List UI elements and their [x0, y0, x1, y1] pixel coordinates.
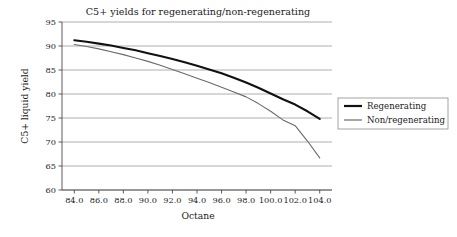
legend-label-non-regenerating: Non/regenerating — [367, 115, 445, 125]
x-tick-label: 94.0 — [188, 195, 206, 205]
y-tick-label: 80 — [46, 89, 56, 99]
x-tick-label: 84.0 — [65, 195, 83, 205]
y-axis-title: C5+ liquid yield — [19, 68, 30, 143]
legend-label-regenerating: Regenerating — [367, 101, 427, 111]
chart-figure: 9590858075706560 84.086.088.090.092.094.… — [0, 0, 457, 237]
y-tick-label: 90 — [46, 41, 56, 51]
y-tick-label: 85 — [46, 65, 56, 75]
y-tick-label: 75 — [46, 113, 56, 123]
x-tick-label: 104.0 — [308, 195, 331, 205]
x-tick-label: 86.0 — [90, 195, 108, 205]
y-tick-label: 60 — [46, 185, 56, 195]
x-axis-title: Octane — [181, 210, 214, 221]
x-tick-label: 92.0 — [163, 195, 181, 205]
y-tick-label: 70 — [46, 137, 56, 147]
x-tick-label: 90.0 — [139, 195, 157, 205]
x-tick-label: 88.0 — [114, 195, 132, 205]
x-tick-label: 100.0 — [259, 195, 282, 205]
x-tick-label: 102.0 — [283, 195, 306, 205]
chart-title: C5+ yields for regenerating/non-regenera… — [86, 6, 310, 17]
x-tick-label: 98.0 — [237, 195, 255, 205]
y-tick-label: 95 — [46, 17, 56, 27]
y-tick-label: 65 — [46, 161, 56, 171]
x-axis-tick-labels: 84.086.088.090.092.094.096.098.0100.0102… — [65, 195, 331, 205]
x-tick-label: 96.0 — [212, 195, 230, 205]
line-chart: 9590858075706560 84.086.088.090.092.094.… — [0, 0, 457, 237]
legend: Regenerating Non/regenerating — [338, 98, 448, 129]
